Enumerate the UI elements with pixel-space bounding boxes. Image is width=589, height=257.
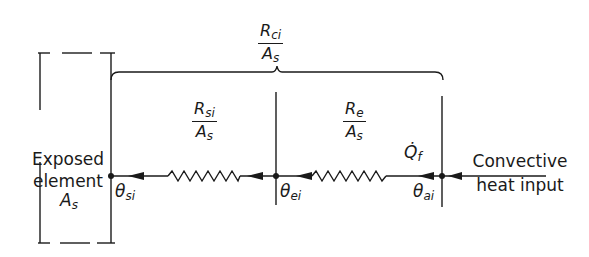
node-subscript: ei (290, 189, 301, 203)
arrow-icon (296, 172, 312, 180)
area-subscript: s (72, 198, 78, 212)
resistance-rsi-label: Rsi As (192, 101, 217, 142)
convective-text: Convective (470, 149, 570, 173)
resistance-re-label: Re As (343, 101, 366, 142)
rsi-subscript: si (205, 106, 215, 120)
arrow-icon (448, 172, 462, 180)
exposed-element-label: Exposed element (28, 148, 108, 192)
theta-symbol: θ (413, 181, 423, 201)
exposed-text: Exposed (28, 148, 108, 170)
theta-symbol: θ (280, 181, 290, 201)
element-text: element (28, 170, 108, 192)
rci-subscript: ci (271, 28, 281, 42)
heat-flow-label: Q̇f (404, 144, 422, 163)
heat-flow-subscript: f (417, 150, 421, 164)
arrow-icon (418, 172, 434, 180)
heat-flow-symbol: Q̇ (404, 142, 417, 162)
node-subscript: ai (423, 189, 434, 203)
area-symbol: A (262, 44, 273, 63)
re-symbol: R (345, 99, 356, 118)
node-dot-si (108, 173, 114, 179)
node-subscript: si (125, 189, 135, 203)
arrow-icon (247, 172, 263, 180)
element-area-label: As (60, 192, 78, 211)
area-subscript: s (357, 129, 363, 143)
area-symbol: A (196, 122, 207, 141)
overall-resistance-brace (111, 66, 443, 80)
resistor-rsi (168, 171, 240, 181)
node-label-si: θsi (115, 183, 135, 202)
rci-symbol: R (260, 21, 271, 40)
network-diagram-lines (0, 0, 589, 257)
area-subscript: s (207, 129, 213, 143)
area-symbol: A (346, 122, 357, 141)
re-subscript: e (356, 106, 363, 120)
node-dot-ai (439, 173, 445, 179)
arrow-icon (128, 172, 144, 180)
node-label-ei: θei (280, 183, 301, 202)
heat-input-text: heat input (470, 173, 570, 197)
node-dot-ei (273, 173, 279, 179)
rsi-symbol: R (194, 99, 205, 118)
resistor-re (312, 171, 386, 181)
overall-resistance-label: Rci As (258, 23, 283, 64)
node-label-ai: θai (413, 183, 434, 202)
area-symbol: A (60, 190, 72, 210)
convective-heat-input-label: Convective heat input (470, 149, 570, 197)
area-subscript: s (273, 51, 279, 65)
theta-symbol: θ (115, 181, 125, 201)
